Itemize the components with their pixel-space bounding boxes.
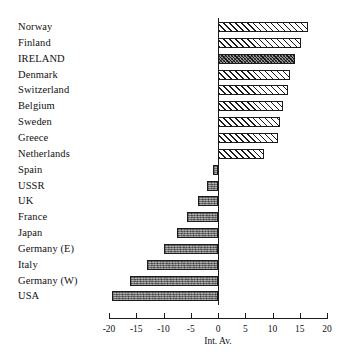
- bar-ireland: [218, 54, 295, 64]
- plot-area: [0, 0, 346, 320]
- axis-tick: [136, 313, 137, 318]
- axis-tick-label: 15: [285, 324, 315, 334]
- bar-netherlands: [218, 149, 264, 159]
- bar-chart: NorwayFinlandIRELANDDenmarkSwitzerlandBe…: [0, 0, 346, 361]
- axis-tick: [327, 313, 328, 318]
- bar-ussr: [207, 181, 218, 191]
- bar-germany-e: [164, 244, 219, 254]
- x-axis-line: [109, 318, 328, 319]
- axis-tick-label: -10: [149, 324, 179, 334]
- axis-tick-label: -5: [176, 324, 206, 334]
- axis-tick: [109, 313, 110, 318]
- bar-germany-w: [130, 276, 218, 286]
- axis-tick: [164, 313, 165, 318]
- bar-italy: [147, 260, 218, 270]
- axis-tick: [273, 313, 274, 318]
- bar-denmark: [218, 70, 290, 80]
- bar-uk: [198, 196, 218, 206]
- axis-tick-label: 20: [312, 324, 342, 334]
- axis-tick-label: 10: [258, 324, 288, 334]
- bar-sweden: [218, 117, 280, 127]
- bar-finland: [218, 38, 301, 48]
- bar-france: [187, 212, 218, 222]
- axis-tick-label: 5: [230, 324, 260, 334]
- bar-norway: [218, 22, 308, 32]
- bar-greece: [218, 133, 278, 143]
- bar-usa: [112, 291, 218, 301]
- axis-tick: [191, 313, 192, 318]
- bar-belgium: [218, 101, 283, 111]
- axis-tick: [300, 313, 301, 318]
- axis-tick-label: -15: [121, 324, 151, 334]
- bar-japan: [177, 228, 218, 238]
- axis-tick-label: 0: [203, 324, 233, 334]
- bar-switzerland: [218, 85, 288, 95]
- axis-tick: [245, 313, 246, 318]
- bar-spain: [213, 165, 218, 175]
- axis-tick: [218, 313, 219, 318]
- axis-tick-label: -20: [94, 324, 124, 334]
- x-axis-label: Int. Av.: [188, 336, 248, 346]
